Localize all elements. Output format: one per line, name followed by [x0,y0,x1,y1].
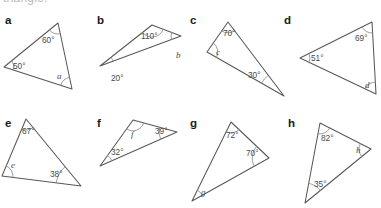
angle-label-d-1: 69° [355,33,368,43]
triangle-problem-f: ff39°32° [97,117,177,166]
triangle-problem-a: a60°a50° [4,14,72,89]
angle-label-f-3: 32° [111,147,124,157]
angle-label-a-2: a [57,71,62,81]
angle-label-a-3: 50° [13,61,26,71]
triangles-figure: a60°a50°b110°b20°c70°30°cd69°d51°e67°38°… [0,0,381,208]
problem-letter-c: c [190,14,197,26]
triangle-outline-h [305,123,371,203]
angle-label-e-2: 38° [50,169,63,179]
triangle-problem-h: h82°h35° [288,117,371,203]
angle-arc-c-2 [261,75,268,83]
angle-label-h-2: h [356,145,361,155]
angle-label-b-1: 110° [141,31,158,41]
angle-arc-b-2 [171,32,172,39]
angle-label-g-3: g [201,187,206,197]
angle-label-g-2: 70° [246,148,259,158]
problem-letter-e: e [5,117,11,129]
angle-label-f-2: 39° [155,126,168,136]
angle-label-f-1: f [131,129,135,139]
triangle-outline-a [4,23,72,89]
angle-label-c-2: 30° [248,70,261,80]
problem-letter-d: d [284,14,291,26]
angle-label-d-3: 51° [311,53,324,63]
problem-letter-g: g [190,117,197,129]
triangle-problem-c: c70°30°c [190,14,284,96]
triangle-outline-e [2,119,81,186]
triangle-problem-d: d69°d51° [284,14,376,94]
angle-label-h-3: 35° [314,179,327,189]
problem-letter-a: a [5,14,12,26]
problem-letter-h: h [288,117,295,129]
triangle-problem-b: b110°b20° [97,14,181,83]
triangle-problem-e: e67°38°e [2,117,81,186]
triangle-outline-c [207,22,284,96]
problem-letter-b: b [97,14,104,26]
angle-label-d-2: d [365,80,370,90]
angle-arc-a-2 [61,77,70,85]
angle-label-b-3: 20° [111,73,124,83]
angle-label-a-1: 60° [42,35,55,45]
angle-arc-f-1 [127,123,144,131]
angle-label-c-1: 70° [223,28,236,38]
triangle-problem-g: g72°70°g [190,117,269,201]
angle-label-e-3: e [11,160,15,170]
problem-letter-f: f [97,117,101,129]
angle-label-c-3: c [216,47,220,57]
angle-arc-a-1 [49,30,60,34]
angle-label-e-1: 67° [22,126,35,136]
worksheet-page: triangle. a60°a50°b110°b20°c70°30°cd69°d… [0,0,381,208]
angle-label-b-2: b [176,50,181,60]
angle-arc-d-3 [309,54,310,63]
angle-label-g-1: 72° [226,130,239,140]
angle-arc-b-3 [111,57,113,61]
angle-label-h-1: 82° [321,133,334,143]
